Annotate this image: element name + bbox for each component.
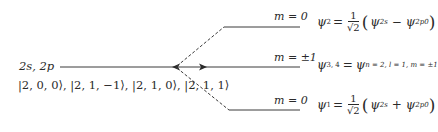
term-subscript: 2s	[380, 101, 388, 109]
term-subscript: 2p0	[415, 18, 428, 26]
one-over-root-two: 1 √2	[347, 10, 360, 34]
equals-sign: =	[333, 15, 343, 29]
psi-symbol: ψ	[317, 15, 326, 29]
psi-2s-term: ψ	[370, 98, 379, 112]
psi-subscript: 2	[326, 18, 330, 26]
middle-wavefunction-equation: ψ3, 4 = ψn = 2, l = 1, m = ±1	[317, 58, 438, 72]
basis-states-label: |2, 0, 0⟩, |2, 1, −1⟩, |2, 1, 0⟩, |2, 1,…	[18, 78, 229, 92]
lower-wavefunction-equation: ψ1 = 1 √2 ( ψ2s + ψ2p0 )	[317, 93, 435, 117]
upper-dashed-connector	[177, 27, 224, 66]
minus-operator: −	[392, 15, 402, 29]
level-label-text: 2s, 2p	[19, 59, 54, 73]
degenerate-level-label: 2s, 2p	[19, 59, 54, 73]
quantum-numbers-subscript: n = 2, l = 1, m = ±1	[365, 61, 437, 69]
close-paren: )	[429, 97, 436, 114]
middle-m-label: m = ±1	[274, 51, 317, 64]
term-subscript: 2p0	[415, 101, 428, 109]
equals-sign: =	[333, 98, 343, 112]
psi-symbol: ψ	[317, 58, 326, 72]
plus-operator: +	[392, 98, 402, 112]
fraction-numerator: 1	[348, 10, 358, 22]
psi-subscript: 1	[326, 101, 330, 109]
psi-symbol: ψ	[317, 98, 326, 112]
fraction-denominator: √2	[347, 22, 360, 34]
open-paren: (	[362, 97, 369, 114]
fraction-denominator: √2	[347, 105, 360, 117]
close-paren: )	[429, 14, 436, 31]
one-over-root-two: 1 √2	[347, 93, 360, 117]
lower-m-label: m = 0	[274, 94, 308, 107]
term-subscript: 2s	[380, 18, 388, 26]
psi-2p0-term: ψ	[406, 98, 415, 112]
fraction-numerator: 1	[348, 93, 358, 105]
psi-subscript: 3, 4	[326, 61, 339, 69]
psi-2s-term: ψ	[370, 15, 379, 29]
open-paren: (	[362, 14, 369, 31]
upper-m-label: m = 0	[274, 10, 308, 23]
equals-sign: =	[343, 58, 353, 72]
psi-2p0-term: ψ	[406, 15, 415, 29]
psi-rhs: ψ	[356, 58, 365, 72]
upper-wavefunction-equation: ψ2 = 1 √2 ( ψ2s − ψ2p0 )	[317, 10, 435, 34]
